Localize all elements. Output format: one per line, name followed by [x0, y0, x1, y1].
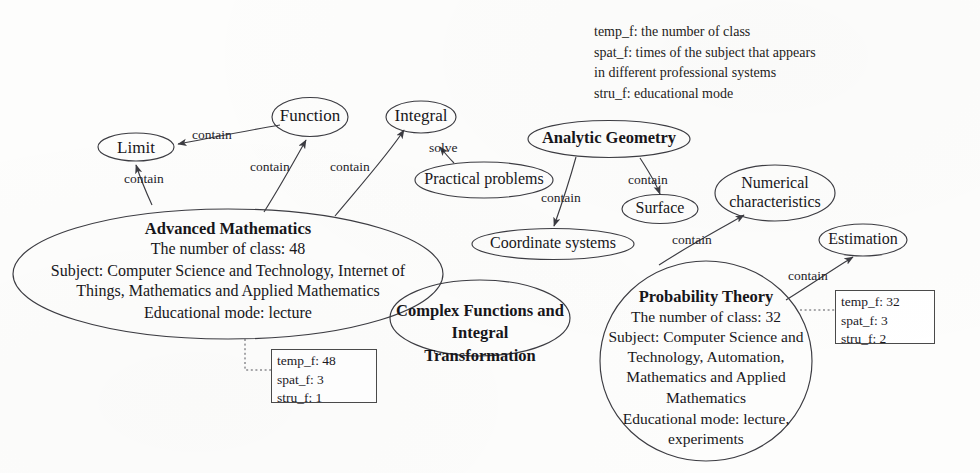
edge-label-am-to-limit: contain: [124, 171, 164, 187]
feature-box-advanced-mathematics[interactable]: temp_f: 48 spat_f: 3 stru_f: 1: [271, 349, 377, 403]
node-mode-advanced-mathematics: Educational mode: lecture: [24, 304, 432, 323]
node-subject-advanced-mathematics: Subject: Computer Science and Technology…: [24, 261, 432, 303]
edge-label-ag-to-coordinate: contain: [541, 190, 581, 206]
feature-temp-f-advanced-mathematics: temp_f: 48: [277, 352, 371, 371]
feature-stru-f-advanced-mathematics: stru_f: 1: [277, 389, 371, 408]
node-title-advanced-mathematics: Advanced Mathematics: [24, 219, 432, 238]
edge-am-to-function: [264, 140, 306, 212]
node-mode-probability-theory: Educational mode: lecture, experiments: [608, 409, 804, 449]
node-label-surface[interactable]: Surface: [622, 199, 698, 218]
connector-am-feature-box: [245, 339, 272, 370]
edge-label-pt-to-estimation: contain: [788, 268, 828, 284]
node-label-coordinate-systems[interactable]: Coordinate systems: [473, 234, 633, 253]
node-class-count-advanced-mathematics: The number of class: 48: [24, 240, 432, 259]
node-title-probability-theory: Probability Theory: [608, 287, 804, 306]
diagram-canvas: temp_f: the number of class spat_f: time…: [0, 0, 980, 473]
node-label-analytic-geometry[interactable]: Analytic Geometry: [524, 128, 694, 147]
edge-label-ag-to-surface: contain: [628, 172, 668, 188]
node-label-numerical-characteristics[interactable]: Numerical characteristics: [713, 174, 837, 211]
feature-temp-f-probability-theory: temp_f: 32: [841, 293, 929, 312]
node-label-integral[interactable]: Integral: [384, 106, 458, 126]
node-label-limit[interactable]: Limit: [96, 138, 176, 158]
edge-label-pt-to-numerical: contain: [672, 232, 712, 248]
edge-label-function-to-limit: contain: [192, 127, 232, 143]
node-label-function[interactable]: Function: [268, 106, 352, 126]
feature-spat-f-advanced-mathematics: spat_f: 3: [277, 371, 371, 390]
feature-stru-f-probability-theory: stru_f: 2: [841, 330, 929, 349]
edge-label-practical-to-integral: solve: [429, 140, 458, 156]
node-probability-theory[interactable]: Probability Theory The number of class: …: [608, 287, 804, 449]
feature-legend: temp_f: the number of class spat_f: time…: [594, 22, 924, 104]
edge-label-am-to-function: contain: [250, 159, 290, 175]
node-advanced-mathematics[interactable]: Advanced Mathematics The number of class…: [24, 219, 432, 323]
node-class-count-probability-theory: The number of class: 32: [608, 308, 804, 326]
feature-spat-f-probability-theory: spat_f: 3: [841, 312, 929, 331]
node-subject-probability-theory: Subject: Computer Science and Technology…: [608, 327, 804, 408]
edge-label-am-to-integral: contain: [330, 159, 370, 175]
feature-box-probability-theory[interactable]: temp_f: 32 spat_f: 3 stru_f: 2: [835, 290, 935, 344]
node-label-complex-functions[interactable]: Complex Functions and Integral Transform…: [396, 300, 564, 367]
node-label-estimation[interactable]: Estimation: [820, 230, 906, 249]
node-label-practical-problems[interactable]: Practical problems: [412, 170, 556, 189]
